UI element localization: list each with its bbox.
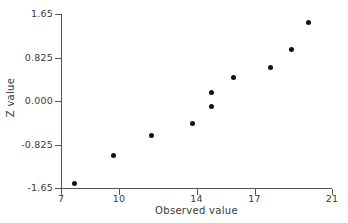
y-tick-mark [55, 58, 62, 59]
y-tick-mark [55, 14, 62, 15]
data-point [209, 90, 214, 95]
data-point [72, 181, 77, 186]
scatter-plot-figure: 1.650.8250.000-0.825-1.65 710141721 Obse… [0, 0, 348, 223]
y-tick-label: -1.65 [1, 183, 53, 193]
y-tick-mark [55, 145, 62, 146]
y-tick-label: 0.825 [1, 53, 53, 63]
x-tick-label: 14 [182, 193, 212, 204]
y-tick-mark [55, 101, 62, 102]
x-tick-label: 17 [240, 193, 270, 204]
data-point [231, 75, 236, 80]
data-point [149, 133, 154, 138]
y-axis-title: Z value [5, 68, 16, 128]
data-point [306, 20, 311, 25]
data-point [190, 121, 195, 126]
x-tick-label: 21 [317, 193, 347, 204]
data-point [289, 47, 294, 52]
x-axis-title: Observed value [61, 205, 332, 216]
x-tick-label: 10 [104, 193, 134, 204]
x-tick-label: 7 [46, 193, 76, 204]
data-point [111, 153, 116, 158]
y-tick-label: 1.65 [1, 9, 53, 19]
y-tick-label: -0.825 [1, 140, 53, 150]
data-point [268, 65, 273, 70]
data-point [209, 104, 214, 109]
